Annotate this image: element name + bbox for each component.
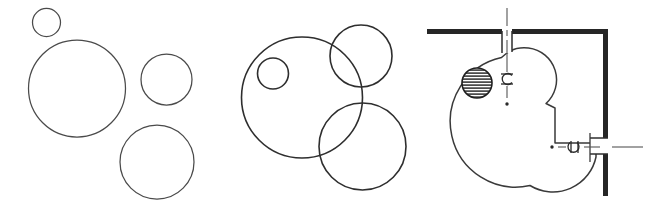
- center-dot-lower: [550, 145, 553, 148]
- hatched-column: [462, 68, 492, 98]
- wall-top-left-segment: [427, 29, 502, 34]
- center-dot-upper: [505, 102, 508, 105]
- figure-root: Four separate circles Overlapping circle…: [0, 0, 647, 216]
- diagram-canvas: [0, 0, 647, 216]
- wall-top-right-segment: [512, 29, 608, 34]
- wall-right-upper-segment: [603, 29, 608, 142]
- wall-right-lower-segment: [603, 152, 608, 196]
